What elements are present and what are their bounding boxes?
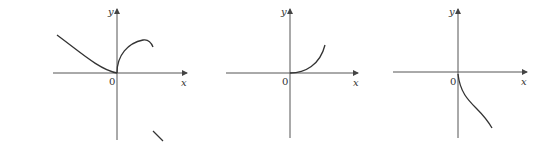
figure: y 0 x y 0 x y 0 x	[0, 0, 547, 149]
graph-1: y 0 x	[53, 6, 187, 141]
origin-label: 0	[450, 76, 456, 87]
graph-2: y 0 x	[226, 6, 359, 138]
y-axis-label: y	[280, 6, 287, 17]
x-axis-label: x	[353, 77, 359, 88]
y-axis-label: y	[107, 6, 114, 17]
curve	[458, 74, 492, 128]
graph-3: y 0 x	[393, 6, 527, 138]
curve	[290, 45, 325, 73]
x-axis-label: x	[521, 76, 527, 87]
curve-left	[57, 35, 117, 73]
origin-label: 0	[282, 76, 288, 87]
detached-segment	[153, 131, 163, 141]
origin-label: 0	[109, 76, 115, 87]
y-axis-label: y	[448, 6, 455, 17]
x-axis-label: x	[181, 77, 187, 88]
curve-right	[117, 40, 153, 73]
